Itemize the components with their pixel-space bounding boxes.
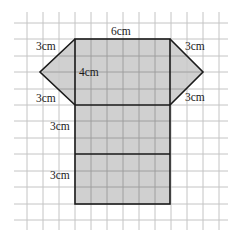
- label-top-width: 6cm: [111, 25, 131, 37]
- label-right-upper-slant: 3cm: [185, 40, 205, 52]
- label-bottom-rect-height: 3cm: [50, 169, 70, 181]
- prism-net-diagram: 6cm 3cm 3cm 4cm 3cm 3cm 3cm 3cm: [0, 0, 239, 243]
- label-top-rect-height: 4cm: [79, 66, 99, 78]
- bottom-rectangle-face: [75, 154, 170, 204]
- label-left-lower-slant: 3cm: [36, 92, 56, 104]
- label-left-upper-slant: 3cm: [36, 40, 56, 52]
- label-middle-rect-height: 3cm: [50, 120, 70, 132]
- middle-rectangle-face: [75, 105, 170, 154]
- label-right-lower-slant: 3cm: [185, 91, 205, 103]
